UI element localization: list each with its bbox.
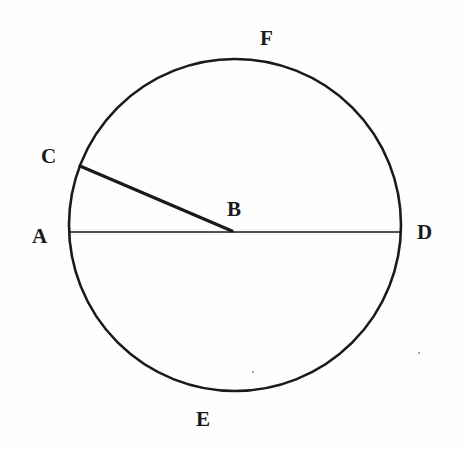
circle-diagram: A B C D E F bbox=[0, 0, 464, 454]
circle-outline bbox=[69, 59, 401, 391]
geometry-canvas bbox=[0, 0, 464, 454]
point-label-d: D bbox=[417, 222, 432, 243]
point-label-b: B bbox=[227, 199, 241, 220]
point-label-a: A bbox=[32, 226, 47, 247]
point-label-e: E bbox=[196, 409, 210, 430]
scan-speck bbox=[252, 371, 254, 373]
point-label-f: F bbox=[260, 28, 273, 49]
radius-segment-cb bbox=[80, 166, 232, 231]
scan-speck bbox=[418, 352, 420, 354]
point-label-c: C bbox=[41, 146, 56, 167]
